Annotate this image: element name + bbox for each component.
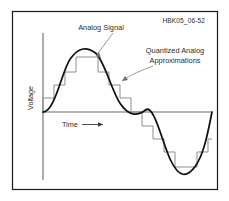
quantization-diagram: Analog Signal Quantized Analog Approxima…: [0, 0, 229, 201]
label-y-axis-voltage: Voltage: [26, 86, 35, 110]
label-analog-signal: Analog Signal: [78, 23, 124, 32]
figure-root: Analog Signal Quantized Analog Approxima…: [0, 0, 229, 201]
label-quantized-line2: Approximations: [150, 56, 201, 65]
label-x-axis-time: Time: [62, 120, 78, 129]
label-quantized-line1: Quantized Analog: [146, 46, 204, 55]
label-figure-code: HBK05_06-52: [162, 17, 205, 25]
